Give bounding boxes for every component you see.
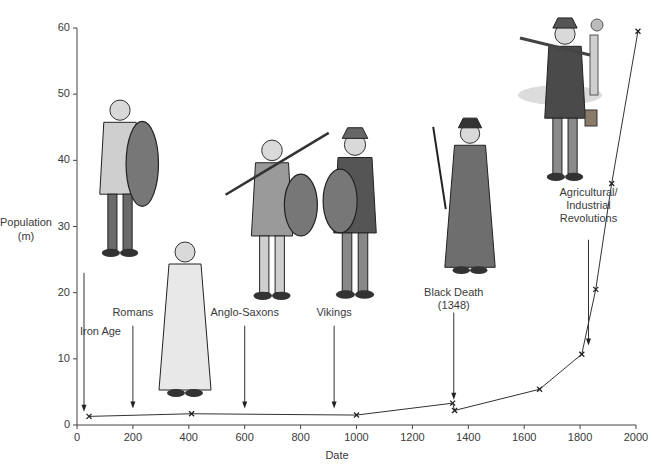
x-tick-label: 200	[113, 431, 153, 443]
annotation-label: Agricultural/IndustrialRevolutions	[543, 186, 633, 225]
arrow-head-icon	[242, 401, 247, 408]
arrow-head-icon	[586, 339, 591, 346]
y-tick-label: 10	[40, 352, 70, 364]
y-tick-label: 20	[40, 286, 70, 298]
anglo-saxon-warrior-icon	[226, 133, 329, 300]
annotation-label-line: Vikings	[289, 306, 379, 319]
x-tick-label: 1800	[560, 431, 600, 443]
y-tick-label: 0	[40, 418, 70, 430]
x-tick-label: 0	[57, 431, 97, 443]
annotation-label-line: Industrial	[543, 199, 633, 212]
annotation-label-line: (1348)	[409, 299, 499, 312]
roman-citizen-icon	[159, 242, 211, 397]
arrow-head-icon	[130, 401, 135, 408]
iron-age-warrior-icon	[100, 100, 159, 257]
y-axis-title-line1: Population	[0, 215, 52, 229]
x-tick-label: 1000	[337, 431, 377, 443]
population-chart	[0, 0, 652, 466]
y-tick-label: 60	[40, 21, 70, 33]
arrow-head-icon	[332, 401, 337, 408]
annotation-label: Romans	[88, 306, 178, 319]
x-tick-label: 1400	[448, 431, 488, 443]
x-tick-label: 2000	[616, 431, 652, 443]
annotation-label-line: Black Death	[409, 286, 499, 299]
viking-warrior-icon	[323, 128, 376, 299]
x-tick-label: 800	[281, 431, 321, 443]
annotation-label-line: Agricultural/	[543, 186, 633, 199]
arrow-head-icon	[81, 405, 86, 412]
y-tick-label: 50	[40, 87, 70, 99]
x-axis-title: Date	[317, 448, 357, 462]
annotation-label-line: Anglo-Saxons	[200, 306, 290, 319]
x-tick-label: 400	[169, 431, 209, 443]
illustrations-layer	[100, 18, 603, 397]
plague-doctor-icon	[433, 118, 495, 274]
annotation-label-line: Iron Age	[80, 325, 170, 338]
annotation-label-line: Romans	[88, 306, 178, 319]
annotation-label: Black Death(1348)	[409, 286, 499, 312]
industrial-worker-icon	[545, 18, 586, 181]
x-tick-label: 1200	[392, 431, 432, 443]
y-axis-title-line2: (m)	[0, 229, 52, 243]
y-tick-label: 40	[40, 153, 70, 165]
x-tick-label: 1600	[504, 431, 544, 443]
annotation-label: Vikings	[289, 306, 379, 319]
arrow-head-icon	[451, 393, 456, 400]
bucket-icon	[585, 110, 597, 126]
x-tick-label: 600	[225, 431, 265, 443]
y-axis-title: Population (m)	[0, 215, 52, 243]
annotation-label: Anglo-Saxons	[200, 306, 290, 319]
annotation-label-line: Revolutions	[543, 212, 633, 225]
annotation-label: Iron Age	[80, 325, 170, 338]
